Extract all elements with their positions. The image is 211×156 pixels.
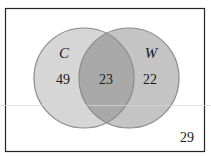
outside-count: 29 [180, 130, 194, 145]
set-c-label: C [59, 45, 70, 61]
intersection-count: 23 [99, 72, 113, 87]
venn-diagram: C W 49 23 22 29 [0, 0, 211, 156]
c-only-count: 49 [56, 72, 70, 87]
set-w-label: W [145, 45, 159, 61]
w-only-count: 22 [143, 72, 157, 87]
